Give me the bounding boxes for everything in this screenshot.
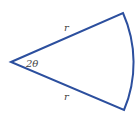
top-radius-label: r bbox=[64, 22, 70, 33]
sector-diagram: r r 2θ bbox=[0, 0, 140, 113]
angle-label: 2θ bbox=[25, 58, 38, 69]
bottom-radius-label: r bbox=[64, 91, 70, 102]
